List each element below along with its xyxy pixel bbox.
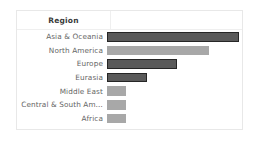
bar-track <box>107 57 242 71</box>
category-label: Middle East <box>17 87 107 96</box>
chart-header-row: Region <box>17 11 242 30</box>
chart-row[interactable]: Middle East <box>17 84 242 98</box>
category-label: Eurasia <box>17 73 107 82</box>
header-cell-region[interactable]: Region <box>17 11 111 29</box>
chart-row[interactable]: North America <box>17 44 242 58</box>
chart-row[interactable]: Africa <box>17 112 242 126</box>
bar-track <box>107 98 242 112</box>
chart-row[interactable]: Eurasia <box>17 71 242 85</box>
bar[interactable] <box>107 114 126 124</box>
bar-selected[interactable] <box>107 59 177 69</box>
bar-selected[interactable] <box>107 32 239 42</box>
bar-track <box>107 44 242 58</box>
category-label: Europe <box>17 59 107 68</box>
category-label: Asia & Oceania <box>17 32 107 41</box>
bar[interactable] <box>107 100 126 110</box>
bar[interactable] <box>107 46 209 56</box>
header-label-region: Region <box>48 16 79 25</box>
bar-track <box>107 112 242 126</box>
region-bar-chart-card: Region Asia & OceaniaNorth AmericaEurope… <box>16 10 243 130</box>
chart-row[interactable]: Europe <box>17 57 242 71</box>
bar-track <box>107 30 242 44</box>
category-label: North America <box>17 46 107 55</box>
chart-row[interactable]: Asia & Oceania <box>17 30 242 44</box>
bar-track <box>107 84 242 98</box>
category-label: Africa <box>17 114 107 123</box>
chart-rows: Asia & OceaniaNorth AmericaEuropeEurasia… <box>17 30 242 125</box>
category-label: Central & South Am… <box>17 100 107 109</box>
chart-row[interactable]: Central & South Am… <box>17 98 242 112</box>
bar-selected[interactable] <box>107 73 147 83</box>
bar[interactable] <box>107 86 126 96</box>
bar-track <box>107 71 242 85</box>
chart-screenshot: Region Asia & OceaniaNorth AmericaEurope… <box>0 0 256 143</box>
header-cell-plot-area <box>112 11 242 29</box>
